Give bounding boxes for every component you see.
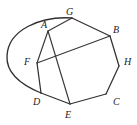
vertex-label-B: B — [113, 25, 119, 35]
vertex-label-E: E — [65, 110, 71, 120]
edge-E-D — [41, 93, 70, 104]
edge-C-E — [70, 94, 106, 104]
vertex-label-F: F — [24, 57, 30, 67]
vertex-label-H: H — [124, 57, 131, 67]
vertex-label-D: D — [33, 97, 40, 107]
vertex-label-G: G — [66, 7, 73, 17]
edge-A-G — [48, 18, 72, 31]
edge-A-F — [37, 31, 48, 63]
vertex-label-A: A — [41, 20, 47, 30]
edge-G-B — [72, 18, 110, 36]
edge-B-H — [110, 36, 119, 66]
geometry-figure: A G B H C E D F — [0, 0, 137, 125]
edge-D-F — [37, 63, 41, 93]
edge-A-E — [48, 31, 70, 104]
vertex-label-C: C — [113, 97, 120, 107]
edge-F-B — [37, 36, 110, 63]
edge-H-C — [106, 66, 119, 94]
